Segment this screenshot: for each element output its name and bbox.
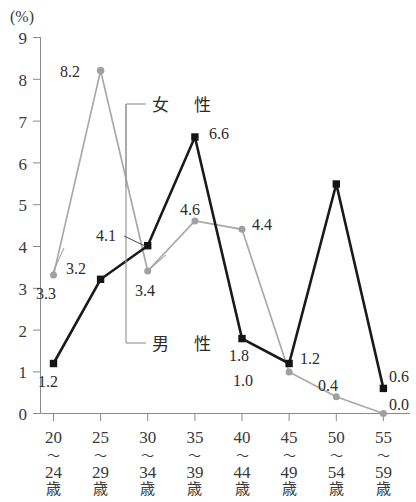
series-male-markers [50, 133, 387, 392]
x-label-unit-0: 歳 [46, 480, 61, 498]
data-point-male-25 [97, 276, 104, 283]
x-label-unit-2: 歳 [140, 480, 155, 498]
data-point-female-45 [286, 368, 293, 375]
y-tick-3: 3 [19, 280, 28, 299]
data-point-female-55 [380, 410, 387, 417]
x-label-start-3: 35 [186, 428, 203, 447]
series-annotation-leaders [53, 104, 166, 343]
y-tick-7: 7 [19, 113, 28, 132]
data-point-male-55 [380, 385, 387, 392]
x-label-unit-3: 歳 [187, 480, 202, 498]
value-label-male-45: 1.2 [300, 350, 320, 367]
data-point-male-40 [238, 335, 245, 342]
value-label-female-50: 0.4 [318, 377, 338, 394]
y-tick-0: 0 [19, 405, 28, 424]
x-range-sep-4: ～ [236, 448, 249, 463]
y-tick-2: 2 [19, 322, 28, 341]
data-point-male-45 [285, 360, 292, 367]
x-axis-ticks [54, 414, 384, 422]
x-range-sep-1: ～ [94, 448, 107, 463]
data-point-female-30 [144, 268, 151, 275]
x-range-sep-0: ～ [47, 448, 60, 463]
x-range-sep-6: ～ [330, 448, 343, 463]
x-label-start-0: 20 [45, 428, 62, 447]
y-axis-ticks [33, 38, 41, 414]
x-label-unit-7: 歳 [376, 480, 391, 498]
x-label-start-5: 45 [281, 428, 298, 447]
x-label-start-4: 40 [234, 428, 251, 447]
data-point-female-20 [50, 272, 57, 279]
series-female-value-labels: 3.3 8.2 3.4 4.6 4.4 1.0 0.4 0.0 [36, 63, 409, 413]
data-point-female-40 [239, 226, 246, 233]
value-label-male-20: 1.2 [38, 373, 58, 390]
x-label-unit-6: 歳 [329, 480, 344, 498]
chart-svg: (%) 9 8 7 6 5 4 3 2 1 [0, 0, 416, 502]
y-axis-tick-labels: 9 8 7 6 5 4 3 2 1 0 [19, 29, 28, 424]
x-label-start-1: 25 [92, 428, 109, 447]
x-range-sep-2: ～ [141, 448, 154, 463]
x-range-sep-5: ～ [283, 448, 296, 463]
y-tick-1: 1 [19, 363, 28, 382]
x-range-sep-7: ～ [377, 448, 390, 463]
y-tick-8: 8 [19, 71, 28, 90]
y-tick-6: 6 [19, 155, 28, 174]
data-point-female-25 [97, 67, 105, 75]
y-tick-9: 9 [19, 29, 28, 48]
x-label-unit-5: 歳 [282, 480, 297, 498]
data-point-male-35 [191, 133, 198, 140]
series-label-male: 男 性 [152, 334, 215, 354]
data-point-female-35 [191, 217, 198, 224]
line-chart: (%) 9 8 7 6 5 4 3 2 1 [0, 0, 416, 502]
value-label-female-25: 8.2 [60, 63, 80, 80]
value-label-female-55: 0.0 [389, 396, 409, 413]
x-axis-tick-labels: 20 25 30 35 40 45 50 55 ～ ～ ～ ～ ～ ～ ～ ～ … [45, 428, 392, 498]
x-label-unit-1: 歳 [93, 480, 108, 498]
data-point-male-20 [50, 360, 57, 367]
x-label-start-6: 50 [328, 428, 345, 447]
series-label-female: 女 性 [152, 95, 215, 115]
value-label-female-45: 1.0 [233, 372, 253, 389]
value-label-male-25: 3.2 [66, 260, 86, 277]
x-label-start-7: 55 [375, 428, 392, 447]
value-label-female-40: 4.4 [252, 216, 272, 233]
x-range-sep-3: ～ [188, 448, 201, 463]
value-label-female-20: 3.3 [36, 285, 56, 302]
series-male-line [54, 137, 384, 388]
value-label-male-30: 4.1 [96, 227, 116, 244]
value-label-female-35: 4.6 [180, 201, 200, 218]
value-label-male-40: 1.8 [229, 347, 249, 364]
value-label-male-35: 6.6 [209, 125, 229, 142]
value-label-male-55: 0.6 [389, 368, 409, 385]
data-point-female-50 [333, 393, 340, 400]
y-tick-4: 4 [19, 238, 28, 257]
x-label-start-2: 30 [139, 428, 156, 447]
value-label-female-30: 3.4 [135, 282, 155, 299]
x-label-unit-4: 歳 [235, 480, 250, 498]
data-point-male-50 [333, 180, 340, 187]
y-tick-5: 5 [19, 196, 28, 215]
y-axis-unit-label: (%) [10, 8, 34, 26]
